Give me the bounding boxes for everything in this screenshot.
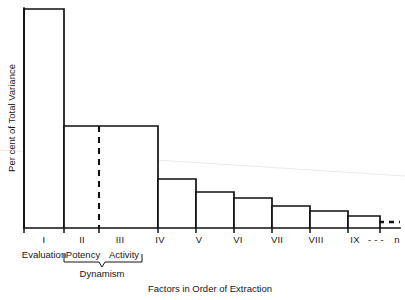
bar-series: [24, 9, 380, 228]
x-tick-label-vii: VII: [271, 234, 283, 245]
y-axis-title: Per cent of Total Variance: [6, 64, 17, 172]
x-axis-title: Factors in Order of Extraction: [148, 283, 272, 294]
x-tick-label-viii: VIII: [308, 234, 323, 245]
factor-group-labels: Evaluation Potency Activity: [22, 249, 139, 260]
x-tick-label-n: n: [394, 234, 399, 245]
group-label-activity: Activity: [109, 249, 139, 260]
x-tick-label-dashes: - - -: [368, 234, 384, 245]
bar-v: [196, 192, 234, 228]
x-tick-label-iii: III: [116, 234, 125, 245]
bar-i: [24, 9, 64, 228]
bar-viii: [310, 211, 348, 228]
bar-ii-iii: [64, 126, 158, 228]
bar-vii: [272, 206, 310, 228]
group-label-evaluation: Evaluation: [22, 249, 66, 260]
x-tick-label-ix: IX: [350, 234, 360, 245]
x-tick-label-ii: II: [79, 234, 85, 245]
group-label-potency: Potency: [66, 249, 101, 260]
group-label-dynamism: Dynamism: [80, 268, 125, 279]
bar-ix: [348, 216, 380, 228]
x-tick-label-i: I: [43, 234, 46, 245]
x-tick-label-vi: VI: [233, 234, 242, 245]
bar-vi: [234, 198, 272, 228]
x-tick-label-iv: IV: [155, 234, 165, 245]
bar-iv: [158, 179, 196, 228]
scree-plot-figure: I II III IV V VI VII VIII IX - - - n Per…: [0, 0, 405, 300]
chart-canvas: I II III IV V VI VII VIII IX - - - n Per…: [0, 0, 405, 300]
x-tick-labels: I II III IV V VI VII VIII IX - - - n: [43, 234, 400, 245]
x-tick-label-v: V: [196, 234, 203, 245]
